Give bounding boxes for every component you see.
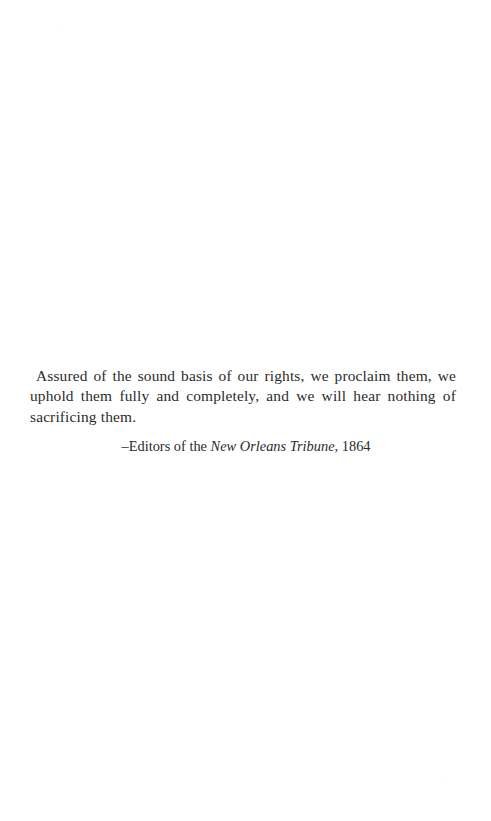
attribution-source-title: New Orleans Tribune [211, 438, 335, 454]
attribution-year-value: 1864 [342, 438, 371, 454]
book-page: Assured of the sound basis of our rights… [0, 0, 491, 821]
epigraph-quote-text: Assured of the sound basis of our rights… [30, 366, 456, 427]
epigraph-block: Assured of the sound basis of our rights… [30, 366, 456, 427]
epigraph-attribution: –Editors of the New Orleans Tribune, 186… [116, 437, 376, 456]
attribution-dash: – [121, 438, 128, 454]
attribution-author: Editors of the [129, 438, 211, 454]
